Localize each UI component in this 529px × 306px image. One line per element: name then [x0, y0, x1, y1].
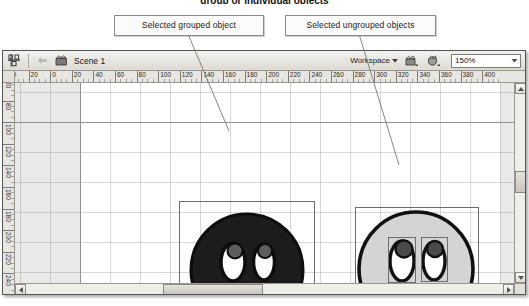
ruler-minor-tick	[498, 79, 499, 82]
ruler-minor-tick	[11, 95, 14, 96]
stage-work-area: 4020020406080100120140160180200220240260…	[3, 71, 525, 294]
ruler-minor-tick	[174, 79, 175, 82]
ruler-minor-tick	[11, 198, 14, 199]
workspace-menu-label: Workspace	[350, 56, 390, 65]
ruler-minor-tick	[11, 160, 14, 161]
ruler-minor-tick	[293, 79, 294, 82]
ruler-minor-tick	[88, 79, 89, 82]
ruler-minor-tick	[390, 79, 391, 82]
ruler-tick-label: 200	[4, 232, 11, 243]
ruler-minor-tick	[11, 155, 14, 156]
grouped-smiley[interactable]	[185, 206, 309, 283]
stage-top-boundary	[15, 122, 514, 123]
ruler-minor-tick	[255, 79, 256, 82]
ruler-minor-tick	[11, 117, 14, 118]
ruler-minor-tick	[11, 203, 14, 204]
ruler-minor-tick	[11, 133, 14, 134]
ruler-tick	[3, 209, 15, 210]
horizontal-scrollbar-thumb[interactable]	[163, 284, 263, 295]
ruler-minor-tick	[126, 79, 127, 82]
ruler-minor-tick	[277, 79, 278, 82]
scene-name-label[interactable]: Scene 1	[74, 56, 105, 66]
ruler-minor-tick	[110, 79, 111, 82]
ruler-tick-label: 300	[374, 72, 387, 79]
ruler-minor-tick	[385, 79, 386, 82]
scrollbar-corner	[514, 283, 525, 294]
vertical-scrollbar-thumb[interactable]	[515, 171, 526, 193]
ruler-tick	[3, 187, 15, 188]
ruler-tick-label: 240	[309, 72, 322, 79]
ruler-minor-tick	[423, 79, 424, 82]
scroll-down-button[interactable]	[515, 272, 526, 283]
ruler-minor-tick	[11, 90, 14, 91]
ruler-minor-tick	[11, 246, 14, 247]
ruler-minor-tick	[11, 84, 14, 85]
ungrouped-smiley[interactable]	[352, 203, 482, 283]
ruler-minor-tick	[11, 182, 14, 183]
ruler-tick-label: 220	[4, 254, 11, 265]
back-arrow-icon[interactable]	[33, 52, 51, 69]
ruler-tick-label: 120	[180, 72, 193, 79]
ruler-minor-tick	[56, 79, 57, 82]
figure-caption: group or individual objects	[0, 0, 529, 4]
scroll-right-button[interactable]	[503, 284, 514, 295]
ruler-tick-label: 360	[439, 72, 452, 79]
ruler-tick-label: 140	[4, 167, 11, 178]
ruler-minor-tick	[218, 79, 219, 82]
edit-multiple-symbols-icon[interactable]	[5, 52, 23, 69]
horizontal-scrollbar[interactable]	[15, 283, 514, 294]
ruler-tick-label: 40	[15, 72, 16, 79]
scroll-left-button[interactable]	[15, 284, 26, 295]
ruler-minor-tick	[77, 79, 78, 82]
ruler-minor-tick	[299, 79, 300, 82]
ruler-minor-tick	[282, 79, 283, 82]
ruler-minor-tick	[66, 79, 67, 82]
ruler-minor-tick	[164, 79, 165, 82]
zoom-level-combobox[interactable]: 150%	[451, 54, 521, 68]
ruler-minor-tick	[11, 214, 14, 215]
ruler-minor-tick	[39, 79, 40, 82]
ruler-tick-label: 260	[331, 72, 344, 79]
ruler-tick-label: 60	[4, 83, 11, 88]
ruler-tick-label: 20	[29, 72, 38, 79]
workspace-menu-button[interactable]: Workspace	[348, 55, 400, 66]
ruler-minor-tick	[336, 79, 337, 82]
ruler-minor-tick	[11, 192, 14, 193]
ruler-minor-tick	[11, 284, 14, 285]
ruler-minor-tick	[326, 79, 327, 82]
chevron-down-icon	[392, 56, 398, 65]
ruler-tick-label: 240	[4, 275, 11, 286]
ruler-minor-tick	[196, 79, 197, 82]
ruler-minor-tick	[261, 79, 262, 82]
ruler-minor-tick	[207, 79, 208, 82]
ruler-tick-label: 320	[396, 72, 409, 79]
ruler-tick	[3, 122, 15, 123]
ruler-tick-label: 180	[4, 211, 11, 222]
ruler-tick-label: 200	[266, 72, 279, 79]
ruler-minor-tick	[11, 219, 14, 220]
ruler-tick-label: 100	[4, 124, 11, 135]
ruler-minor-tick	[11, 236, 14, 237]
vertical-ruler[interactable]: 6080100120140160180200220240	[3, 83, 15, 294]
edit-bar: Scene 1 Workspace	[3, 51, 525, 71]
scene-icon[interactable]	[52, 52, 70, 69]
ruler-minor-tick	[320, 79, 321, 82]
ruler-minor-tick	[401, 79, 402, 82]
scroll-up-button[interactable]	[515, 83, 526, 94]
ruler-minor-tick	[466, 79, 467, 82]
ruler-minor-tick	[347, 79, 348, 82]
ruler-minor-tick	[11, 138, 14, 139]
edit-scene-icon[interactable]	[403, 52, 421, 69]
canvas-viewport[interactable]	[15, 83, 514, 283]
ruler-minor-tick	[471, 79, 472, 82]
ruler-minor-tick	[11, 171, 14, 172]
ruler-minor-tick	[304, 79, 305, 82]
ruler-minor-tick	[142, 79, 143, 82]
edit-symbol-icon[interactable]	[425, 52, 443, 69]
ruler-minor-tick	[342, 79, 343, 82]
ruler-minor-tick	[239, 79, 240, 82]
ruler-minor-tick	[488, 79, 489, 82]
vertical-scrollbar[interactable]	[514, 83, 525, 283]
chevron-down-icon[interactable]	[508, 55, 520, 67]
horizontal-ruler[interactable]: 4020020406080100120140160180200220240260…	[15, 71, 525, 83]
